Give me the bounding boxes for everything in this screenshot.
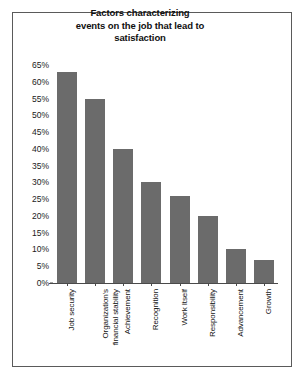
y-axis-tick-label: 5%: [15, 261, 49, 271]
x-axis-tick-label-line: Work Itself: [180, 289, 190, 375]
chart-title-line: satisfaction: [22, 32, 258, 45]
bar: [170, 196, 190, 283]
chart-title-line: events on the job that lead to: [22, 20, 258, 33]
plot-area: 65%60%55%50%45%40%35%30%25%20%15%10%5%0%…: [53, 65, 278, 283]
bar: [254, 260, 274, 283]
x-axis-tick-label-line: Job security: [67, 289, 77, 375]
y-axis-tick-label: 15%: [15, 228, 49, 238]
x-axis-tick-mark: [95, 283, 96, 286]
y-axis-tick-label: 30%: [15, 177, 49, 187]
y-axis-tick-label: 40%: [15, 144, 49, 154]
bar: [226, 249, 246, 283]
y-axis-tick-label: 25%: [15, 194, 49, 204]
x-axis-tick-label: Job security: [67, 289, 77, 375]
x-axis-tick-label: Organization'sfinancial stability: [101, 289, 120, 375]
x-axis-tick-mark: [123, 283, 124, 286]
bar: [113, 149, 133, 283]
bar: [198, 216, 218, 283]
bar: [85, 99, 105, 283]
x-axis-tick-label: Advancement: [236, 289, 246, 375]
x-axis-tick-mark: [236, 283, 237, 286]
x-axis-tick-label: Responsibility: [208, 289, 218, 375]
y-axis-tick-label: 45%: [15, 127, 49, 137]
chart-title: Factors characterizingevents on the job …: [22, 7, 258, 45]
y-axis-tick-label: 55%: [15, 94, 49, 104]
x-axis-tick-mark: [67, 283, 68, 286]
x-axis-tick-mark: [180, 283, 181, 286]
x-axis-tick-label: Achievement: [123, 289, 133, 375]
x-axis-tick-label: Recognition: [151, 289, 161, 375]
x-axis-tick-label: Growth: [264, 289, 274, 375]
x-axis-tick-label: Work Itself: [180, 289, 190, 375]
y-axis-tick-label: 60%: [15, 77, 49, 87]
x-axis-tick-mark: [208, 283, 209, 286]
y-axis-tick-label: 35%: [15, 161, 49, 171]
bar: [57, 72, 77, 283]
x-axis-line: [49, 283, 278, 284]
x-axis-tick-label-line: Organization's: [101, 289, 111, 375]
y-axis-tick-label: 65%: [15, 60, 49, 70]
y-axis-tick-label: 20%: [15, 211, 49, 221]
y-axis-tick-label: 50%: [15, 110, 49, 120]
y-axis-tick-label: 10%: [15, 244, 49, 254]
x-axis-tick-label-line: financial stability: [110, 289, 120, 375]
chart-title-line: Factors characterizing: [22, 7, 258, 20]
x-axis-tick-label-line: Responsibility: [208, 289, 218, 375]
x-axis-tick-label-line: Growth: [264, 289, 274, 375]
chart-figure: Factors characterizingevents on the job …: [0, 0, 305, 380]
x-axis-tick-label-line: Advancement: [236, 289, 246, 375]
y-axis-tick-label: 0%: [15, 278, 49, 288]
x-axis-tick-label-line: Achievement: [123, 289, 133, 375]
x-axis-tick-mark: [264, 283, 265, 286]
bar: [141, 182, 161, 283]
x-axis-tick-label-line: Recognition: [151, 289, 161, 375]
x-axis-tick-mark: [151, 283, 152, 286]
